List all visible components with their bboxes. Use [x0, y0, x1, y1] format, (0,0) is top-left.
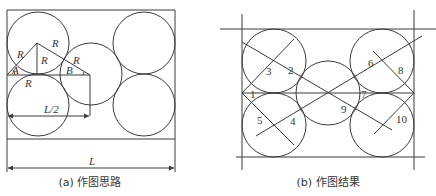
- point-label-4: 4: [290, 115, 296, 127]
- label-full-width: L: [88, 155, 95, 167]
- point-label-8: 8: [398, 64, 404, 76]
- point-label-10: 10: [396, 113, 408, 125]
- diagonal-8: [373, 51, 414, 93]
- circle-bottom-left: [7, 74, 69, 136]
- caption-a: (a) 作图思路: [59, 176, 122, 189]
- label-half-width: L/2: [43, 103, 59, 115]
- point-label-7: 7: [361, 88, 367, 100]
- circle-bottom-right: [113, 74, 175, 136]
- panel-b: 1 2 3 4 5 6 7 8 9 10 (b) 作图结果: [220, 10, 436, 189]
- label-R-vertical: R: [40, 54, 48, 66]
- label-R-bottom: R: [24, 77, 32, 89]
- label-R-left: R: [16, 48, 24, 60]
- point-label-9: 9: [341, 103, 347, 115]
- label-angle-A: A: [11, 64, 19, 76]
- angle-B-arc: [83, 72, 85, 76]
- label-R-right: R: [72, 54, 80, 66]
- diagonal-5: [242, 93, 294, 145]
- label-angle-B: B: [66, 64, 73, 76]
- caption-b: (b) 作图结果: [296, 176, 359, 189]
- panel-a: R R R R R A B L/2 L (a) 作图思路: [7, 10, 175, 189]
- point-label-2: 2: [288, 64, 294, 76]
- diagonal-10: [374, 93, 414, 134]
- circle-top-right: [113, 12, 175, 74]
- point-label-5: 5: [257, 114, 263, 126]
- point-label-1: 1: [250, 88, 256, 100]
- diagram-canvas: R R R R R A B L/2 L (a) 作图思路 1 2 3: [0, 0, 436, 196]
- point-label-3: 3: [266, 65, 272, 77]
- diagonal-2-9: [242, 42, 392, 130]
- label-R-top: R: [51, 37, 59, 49]
- point-label-6: 6: [368, 57, 374, 69]
